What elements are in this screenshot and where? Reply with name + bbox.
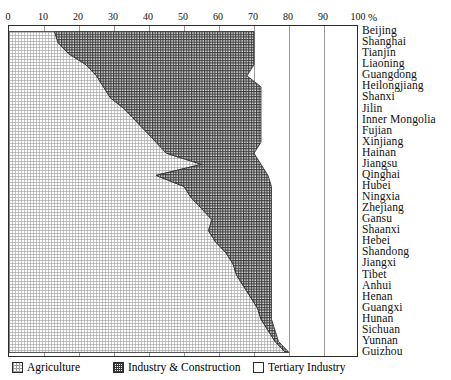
stacked-area-paths xyxy=(9,26,357,356)
chart-figure: 0102030405060708090100 % xyxy=(0,0,451,380)
legend-swatch-industry-icon xyxy=(113,362,124,373)
x-tick-50: 50 xyxy=(171,12,195,22)
x-tick-80: 80 xyxy=(276,12,300,22)
x-tick-60: 60 xyxy=(206,12,230,22)
legend-label-industry: Industry & Construction xyxy=(128,361,240,373)
legend-label-tertiary: Tertiary Industry xyxy=(268,361,345,373)
x-tick-40: 40 xyxy=(136,12,160,22)
x-tick-70: 70 xyxy=(241,12,265,22)
plot-area xyxy=(8,25,358,357)
category-label-tibet: Tibet xyxy=(362,269,387,280)
category-label-guizhou: Guizhou xyxy=(362,346,403,357)
category-labels: BeijingShanghaiTianjinLiaoningGuangdongH… xyxy=(362,15,451,360)
legend-swatch-agriculture-icon xyxy=(12,362,23,373)
legend-label-agriculture: Agriculture xyxy=(27,361,80,373)
category-label-henan: Henan xyxy=(362,291,393,302)
category-label-anhui: Anhui xyxy=(362,280,391,291)
x-tick-0: 0 xyxy=(0,12,20,22)
x-tick-20: 20 xyxy=(66,12,90,22)
category-label-shanxi: Shanxi xyxy=(362,91,395,102)
category-label-inner-mongolia: Inner Mongolia xyxy=(362,114,436,125)
x-tick-10: 10 xyxy=(31,12,55,22)
category-label-jiangxi: Jiangxi xyxy=(362,257,396,268)
category-label-fujian: Fujian xyxy=(362,125,392,136)
legend-item-agriculture[interactable]: Agriculture xyxy=(12,361,80,373)
x-tick-30: 30 xyxy=(101,12,125,22)
legend-swatch-tertiary-icon xyxy=(253,362,264,373)
legend-item-tertiary[interactable]: Tertiary Industry xyxy=(253,361,345,373)
plot-inner xyxy=(9,26,357,356)
category-label-jilin: Jilin xyxy=(362,103,382,114)
x-tick-90: 90 xyxy=(311,12,335,22)
chart-legend: AgricultureIndustry & ConstructionTertia… xyxy=(0,360,451,380)
legend-item-industry[interactable]: Industry & Construction xyxy=(113,361,240,373)
